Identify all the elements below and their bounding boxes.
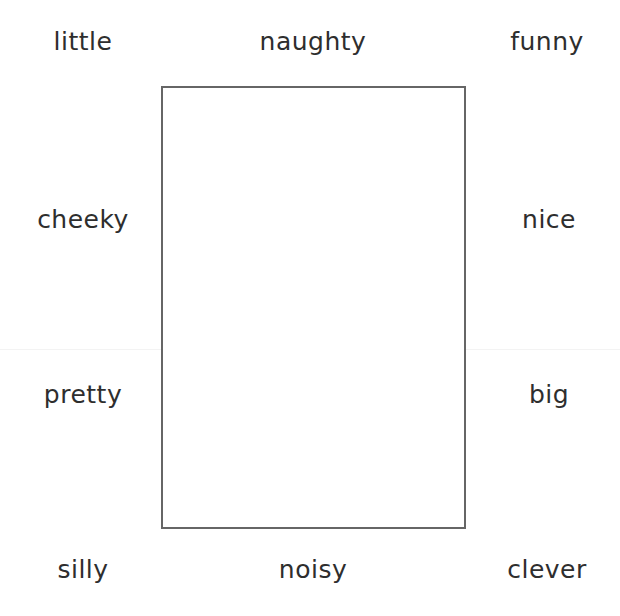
- word-nice: nice: [469, 204, 620, 236]
- word-noisy: noisy: [233, 554, 393, 586]
- word-cheeky: cheeky: [3, 204, 163, 236]
- word-funny: funny: [467, 26, 620, 58]
- word-pretty: pretty: [3, 379, 163, 411]
- word-little: little: [3, 26, 163, 58]
- drawing-box[interactable]: [161, 86, 466, 529]
- word-clever: clever: [467, 554, 620, 586]
- word-big: big: [469, 379, 620, 411]
- word-naughty: naughty: [233, 26, 393, 58]
- word-silly: silly: [3, 554, 163, 586]
